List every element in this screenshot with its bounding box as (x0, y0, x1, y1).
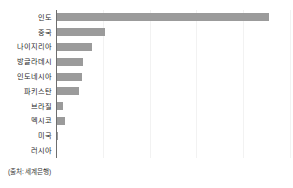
gridline (290, 10, 291, 158)
bar-row (56, 114, 290, 129)
category-label: 방글라데시 (0, 54, 52, 69)
bar-row (56, 69, 290, 84)
bar-row (56, 143, 290, 158)
bar-row (56, 25, 290, 40)
bar (56, 13, 269, 21)
category-label: 인도네시아 (0, 69, 52, 84)
bar-rows (56, 10, 290, 158)
category-label: 인도 (0, 10, 52, 25)
category-label: 파키스탄 (0, 84, 52, 99)
bar-row (56, 99, 290, 114)
category-axis-labels: 인도중국나이지리아방글라데시인도네시아파키스탄브라질멕시코미국러시아 (0, 10, 52, 158)
bar (56, 87, 79, 95)
bar (56, 117, 65, 125)
bar-row (56, 128, 290, 143)
bar (56, 73, 82, 81)
category-label: 미국 (0, 128, 52, 143)
bar (56, 102, 63, 110)
bar-row (56, 84, 290, 99)
bar-chart: 인도중국나이지리아방글라데시인도네시아파키스탄브라질멕시코미국러시아 (출처: … (0, 0, 293, 188)
category-label: 러시아 (0, 143, 52, 158)
bar (56, 28, 105, 36)
category-label: 브라질 (0, 99, 52, 114)
bar-row (56, 10, 290, 25)
category-label: 중국 (0, 25, 52, 40)
source-note: (출처: 세계은행) (8, 166, 51, 176)
plot-area (56, 10, 290, 158)
bar-row (56, 54, 290, 69)
bar (56, 58, 83, 66)
y-axis-line (56, 10, 57, 158)
category-label: 멕시코 (0, 114, 52, 129)
category-label: 나이지리아 (0, 40, 52, 55)
bar-row (56, 40, 290, 55)
bar (56, 43, 92, 51)
